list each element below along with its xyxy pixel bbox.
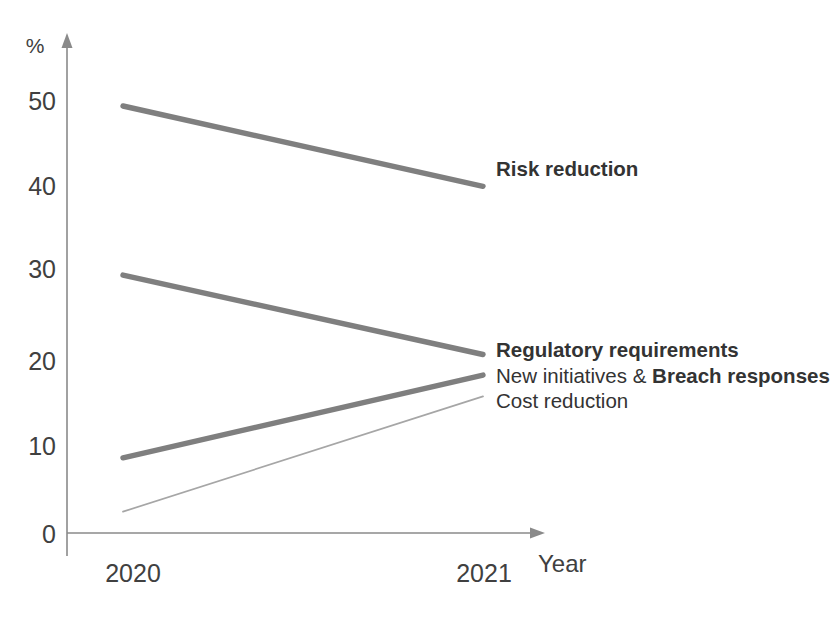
x-axis-arrowhead	[530, 528, 545, 539]
series-line-new-initiatives-breach-responses	[123, 375, 483, 458]
y-tick-label-20: 20	[28, 347, 56, 375]
x-tick-label-2020: 2020	[105, 559, 161, 587]
x-tick-label-2021: 2021	[456, 559, 512, 587]
chart-canvas: % 50 40 30 20 10 0 2020 2021 Year	[0, 0, 840, 620]
series-label-risk-reduction: Risk reduction	[496, 159, 638, 180]
x-axis-title: Year	[538, 550, 587, 577]
series-label-regulatory-requirements: Regulatory requirements	[496, 340, 739, 361]
series-label-new-initiatives-breach-responses: New initiatives & Breach responses	[496, 366, 830, 387]
series-label-new-initiatives-prefix: New initiatives &	[496, 364, 652, 387]
y-axis-unit-label: %	[26, 34, 45, 57]
series-label-cost-reduction: Cost reduction	[496, 391, 628, 412]
y-axis-arrowhead	[62, 33, 73, 48]
series-line-regulatory-requirements	[123, 275, 483, 354]
series-line-cost-reduction	[123, 396, 483, 511]
series-line-risk-reduction	[123, 106, 483, 186]
y-tick-label-10: 10	[28, 432, 56, 460]
y-tick-label-40: 40	[28, 172, 56, 200]
line-chart: % 50 40 30 20 10 0 2020 2021 Year Risk r…	[0, 0, 840, 620]
y-tick-label-0: 0	[42, 520, 56, 548]
y-tick-label-30: 30	[28, 255, 56, 283]
series-label-breach-responses: Breach responses	[652, 364, 830, 387]
y-tick-label-50: 50	[28, 87, 56, 115]
